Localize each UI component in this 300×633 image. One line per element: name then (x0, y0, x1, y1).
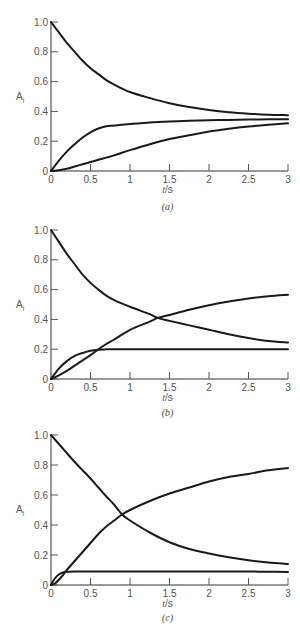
x-tick-label: 3 (285, 382, 291, 393)
x-tick-label: 0.5 (84, 174, 98, 185)
y-axis-label: Ai (16, 504, 25, 517)
x-tick-label: 2.5 (242, 588, 256, 599)
x-tick-label: 3 (285, 588, 291, 599)
x-tick-label: 3 (285, 174, 291, 185)
y-tick-label: 0.2 (34, 344, 48, 355)
y-tick-label: 0.2 (34, 136, 48, 147)
y-axis-label-sub: i (23, 97, 25, 104)
x-tick-label: 1 (127, 174, 133, 185)
y-tick-label: 0.4 (34, 314, 48, 325)
y-tick-label: 0.8 (34, 460, 48, 471)
y-tick-label: 1.0 (34, 17, 48, 28)
x-tick-label: 1 (127, 588, 133, 599)
y-tick-label: 0.6 (34, 284, 48, 295)
panel-c: 00.20.40.60.81.000.511.522.53Ait/s(c) (16, 430, 291, 625)
curve-series-1 (51, 435, 288, 564)
x-tick-label: 0.5 (84, 588, 98, 599)
x-axis-label-unit: /s (165, 184, 173, 195)
y-tick-label: 1.0 (34, 430, 48, 441)
panel-caption: (b) (162, 407, 174, 419)
y-tick-label: 0.6 (34, 490, 48, 501)
curve-series-3 (51, 295, 288, 379)
y-tick-label: 0.2 (34, 550, 48, 561)
x-axis-label: t/s (162, 598, 173, 609)
panel-b: 00.20.40.60.81.000.511.522.53Ait/s(b) (16, 225, 291, 420)
x-axis-label: t/s (162, 392, 173, 403)
x-tick-label: 0 (48, 382, 54, 393)
curve-series-3 (51, 468, 288, 585)
x-tick-label: 2 (206, 588, 212, 599)
x-axis-label: t/s (162, 184, 173, 195)
panel-caption: (c) (162, 612, 174, 624)
x-tick-label: 0.5 (84, 382, 98, 393)
figure: 00.20.40.60.81.000.511.522.53Ait/s(a) 00… (0, 0, 300, 633)
y-tick-label: 0.8 (34, 46, 48, 57)
y-axis-label: Ai (16, 91, 25, 104)
x-tick-label: 1 (127, 382, 133, 393)
curve-series-1 (51, 230, 288, 343)
x-tick-label: 0 (48, 174, 54, 185)
curve-series-1 (51, 22, 288, 115)
x-tick-label: 2.5 (242, 382, 256, 393)
y-axis-label-sub: i (23, 510, 25, 517)
curve-series-3 (51, 123, 288, 171)
x-axis-label-unit: /s (165, 598, 173, 609)
panel-a: 00.20.40.60.81.000.511.522.53Ait/s(a) (16, 17, 291, 214)
x-tick-label: 2 (206, 174, 212, 185)
y-axis-label: Ai (16, 299, 25, 312)
x-tick-label: 2 (206, 382, 212, 393)
x-tick-label: 2.5 (242, 174, 256, 185)
y-tick-label: 0.4 (34, 520, 48, 531)
panel-caption: (a) (162, 201, 174, 213)
x-axis-label-unit: /s (165, 392, 173, 403)
y-tick-label: 0.8 (34, 254, 48, 265)
y-tick-label: 0.6 (34, 76, 48, 87)
y-tick-label: 0.4 (34, 106, 48, 117)
y-axis-label-sub: i (23, 305, 25, 312)
y-tick-label: 1.0 (34, 225, 48, 236)
x-tick-label: 0 (48, 588, 54, 599)
